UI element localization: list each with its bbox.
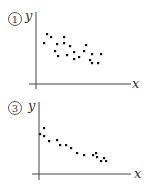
data-point [92,154,94,156]
data-point [65,144,67,146]
data-point [91,53,93,55]
data-point [69,45,71,47]
data-point [43,127,45,129]
data-point [97,62,99,64]
data-point [48,140,50,142]
scatter-plots: 1 y x 3 y x [0,0,152,184]
data-point [66,54,68,56]
data-point [43,42,45,44]
data-point [63,36,65,38]
data-point [83,154,85,156]
plot-number: 3 [12,103,18,114]
data-point [43,135,45,137]
data-point [56,139,58,141]
data-point [91,62,93,64]
plot-3: 3 y x [9,98,143,181]
data-point [63,42,65,44]
data-point [57,55,59,57]
x-axis-label: x [134,166,142,181]
data-point [96,156,98,158]
plot-number: 1 [12,14,18,25]
data-point [54,50,56,52]
data-point [39,133,41,135]
data-point [70,147,72,149]
data-point [100,53,102,55]
data-point [59,144,61,146]
data-points [43,33,102,64]
data-points [39,127,107,162]
y-axis-label: y [24,8,33,23]
data-point [73,58,75,60]
plot-1: 1 y x [9,8,141,91]
data-point [56,43,58,45]
data-point [78,56,80,58]
y-axis-label: y [27,98,36,113]
data-point [85,44,87,46]
data-point [103,157,105,159]
data-point [89,59,91,61]
data-point [46,33,48,35]
data-point [73,51,75,53]
data-point [76,152,78,154]
data-point [105,160,107,162]
data-point [50,36,52,38]
data-point [100,160,102,162]
x-axis-label: x [132,76,140,91]
data-point [83,50,85,52]
data-point [95,152,97,154]
